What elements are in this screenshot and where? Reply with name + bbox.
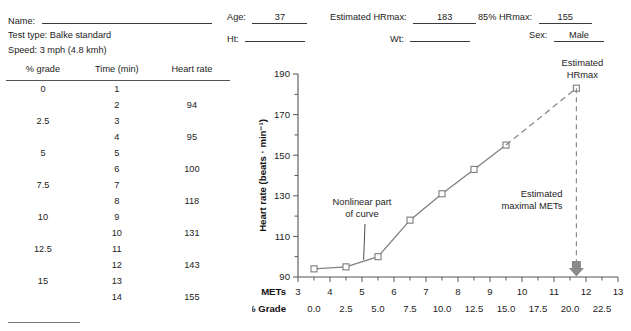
x-tick-label: 7 bbox=[423, 286, 428, 297]
y-axis-title: Heart rate (beats · min⁻¹) bbox=[257, 119, 268, 232]
cell-heart-rate: 143 bbox=[154, 257, 230, 273]
data-point-marker bbox=[439, 191, 445, 197]
table-row: 7.57 bbox=[6, 177, 230, 193]
cell-time: 2 bbox=[80, 97, 154, 113]
field-weight-input[interactable] bbox=[410, 30, 470, 42]
cell-grade bbox=[6, 193, 80, 209]
x-secondary-tick-label: 22.5 bbox=[593, 303, 612, 314]
field-weight: Wt: bbox=[390, 30, 470, 44]
field-sex-input[interactable]: Male bbox=[554, 30, 604, 42]
cell-time: 8 bbox=[80, 193, 154, 209]
x-tick-label: 11 bbox=[549, 286, 559, 297]
column-header-grade: % grade bbox=[6, 62, 80, 81]
cell-grade: 15 bbox=[6, 273, 80, 289]
data-point-marker bbox=[471, 166, 477, 172]
field-test-type: Test type: Balke standard bbox=[8, 30, 111, 40]
cell-grade bbox=[6, 97, 80, 113]
field-age-input[interactable]: 37 bbox=[252, 12, 307, 24]
cell-grade: 5 bbox=[6, 145, 80, 161]
x-secondary-tick-label: 10.0 bbox=[433, 303, 452, 314]
field-sex: Sex: Male bbox=[529, 30, 604, 42]
table-row: 8118 bbox=[6, 193, 230, 209]
x-secondary-tick-label: 12.5 bbox=[465, 303, 484, 314]
cell-grade: 12.5 bbox=[6, 241, 80, 257]
field-name-input[interactable] bbox=[42, 12, 212, 24]
x-axis-title: METs bbox=[261, 286, 286, 297]
field-name: Name: bbox=[8, 12, 212, 26]
cell-heart-rate bbox=[154, 209, 230, 225]
cell-heart-rate bbox=[154, 81, 230, 98]
table-row: 6100 bbox=[6, 161, 230, 177]
cell-grade bbox=[6, 161, 80, 177]
cell-heart-rate bbox=[154, 241, 230, 257]
cell-time: 13 bbox=[80, 273, 154, 289]
cell-time: 7 bbox=[80, 177, 154, 193]
x-secondary-tick-label: 15.0 bbox=[497, 303, 516, 314]
field-estimated-hrmax-input[interactable]: 183 bbox=[413, 12, 476, 24]
cell-time: 12 bbox=[80, 257, 154, 273]
x-secondary-tick-label: 5.0 bbox=[371, 303, 384, 314]
x-tick-label: 10 bbox=[517, 286, 528, 297]
table-row: 12143 bbox=[6, 257, 230, 273]
field-speed: Speed: 3 mph (4.8 kmh) bbox=[8, 45, 107, 55]
table-header-row: % grade Time (min) Heart rate bbox=[6, 62, 230, 81]
cell-time: 11 bbox=[80, 241, 154, 257]
cell-heart-rate: 94 bbox=[154, 97, 230, 113]
hrmax-note-line2: HRmax bbox=[567, 69, 599, 80]
nonlinear-note-line2: of curve bbox=[345, 208, 378, 219]
x-axis-title-secondary: % Grade bbox=[252, 303, 286, 314]
field-85-percent-hrmax-label: 85% HRmax: bbox=[478, 12, 532, 22]
cell-time: 1 bbox=[80, 81, 154, 98]
y-tick-label: 90 bbox=[279, 271, 290, 282]
table-row: 495 bbox=[6, 129, 230, 145]
field-test-type-label: Test type: Balke standard bbox=[8, 30, 111, 40]
y-tick-label: 110 bbox=[275, 231, 290, 242]
field-height-label: Ht: bbox=[227, 34, 239, 44]
x-secondary-tick-label: 17.5 bbox=[529, 303, 548, 314]
cell-grade: 0 bbox=[6, 81, 80, 98]
cell-grade bbox=[6, 129, 80, 145]
cell-time: 4 bbox=[80, 129, 154, 145]
y-tick-label: 170 bbox=[274, 109, 290, 120]
cell-time: 5 bbox=[80, 145, 154, 161]
cell-grade: 7.5 bbox=[6, 177, 80, 193]
x-secondary-tick-label: 7.5 bbox=[403, 303, 416, 314]
table-row: 55 bbox=[6, 145, 230, 161]
x-tick-label: 5 bbox=[359, 286, 364, 297]
field-85-percent-hrmax-input[interactable]: 155 bbox=[539, 12, 592, 24]
cell-grade bbox=[6, 257, 80, 273]
x-tick-label: 8 bbox=[455, 286, 460, 297]
data-point-marker bbox=[343, 264, 349, 270]
cell-time: 9 bbox=[80, 209, 154, 225]
cell-heart-rate bbox=[154, 113, 230, 129]
cell-heart-rate bbox=[154, 177, 230, 193]
cell-heart-rate: 118 bbox=[154, 193, 230, 209]
field-weight-label: Wt: bbox=[390, 34, 404, 44]
cell-grade: 10 bbox=[6, 209, 80, 225]
table-row: 14155 bbox=[6, 289, 230, 305]
x-tick-label: 12 bbox=[581, 286, 592, 297]
field-speed-label: Speed: 3 mph (4.8 kmh) bbox=[8, 45, 107, 55]
data-point-marker bbox=[407, 217, 413, 223]
x-tick-label: 6 bbox=[391, 286, 396, 297]
x-secondary-tick-label: 20.0 bbox=[561, 303, 580, 314]
column-header-heart-rate: Heart rate bbox=[154, 62, 230, 81]
table-row: 12.511 bbox=[6, 241, 230, 257]
y-tick-label: 190 bbox=[274, 68, 290, 79]
test-results-table: % grade Time (min) Heart rate 012942.534… bbox=[0, 62, 240, 305]
cell-time: 3 bbox=[80, 113, 154, 129]
field-sex-label: Sex: bbox=[529, 30, 547, 40]
table-bottom-rule bbox=[8, 322, 80, 323]
nonlinear-note-line1: Nonlinear part bbox=[333, 196, 392, 207]
cell-time: 14 bbox=[80, 289, 154, 305]
cell-heart-rate bbox=[154, 273, 230, 289]
cell-heart-rate: 155 bbox=[154, 289, 230, 305]
estimated-maximal-mets-arrow-icon bbox=[569, 261, 584, 277]
cell-grade bbox=[6, 225, 80, 241]
heart-rate-vs-mets-chart: 901101301501701903456789101112130.02.55.… bbox=[252, 56, 631, 331]
field-height-input[interactable] bbox=[245, 30, 305, 42]
cell-heart-rate: 100 bbox=[154, 161, 230, 177]
field-age-label: Age: bbox=[227, 12, 246, 22]
chart-svg: 901101301501701903456789101112130.02.55.… bbox=[252, 56, 631, 331]
table-row: 109 bbox=[6, 209, 230, 225]
